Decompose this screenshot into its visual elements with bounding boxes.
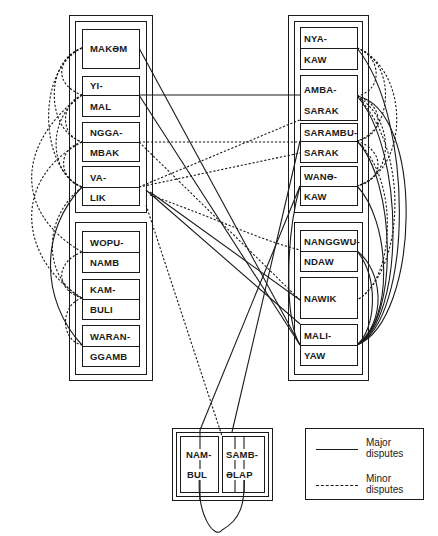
clan-nggambak[interactable]: NGGA- MBAK [82, 122, 140, 162]
clan-valik[interactable]: VA- LIK [82, 166, 140, 206]
clan-label: SARAK [304, 147, 339, 158]
clan-kambuli[interactable]: KAM- BULI [82, 279, 140, 320]
clan-label: NYA- [304, 33, 327, 44]
clan-label: KAW [304, 54, 327, 65]
clan-nawik[interactable]: NAWIK [300, 277, 358, 319]
clan-wanekaw[interactable]: WANƏ- KAW [300, 166, 358, 206]
clan-label: SAMB- [226, 449, 258, 460]
clan-nambul[interactable]: NAM- BUL [180, 436, 219, 493]
clan-label: KAW [304, 191, 327, 202]
legend-minor-line-swatch [316, 485, 358, 486]
clan-label: MALI- [304, 330, 331, 341]
dispute-diagram: MAKƏM YI- MAL NGGA- MBAK VA- LIK WOPU- N… [0, 0, 438, 536]
clan-label: AMBA- [304, 84, 337, 95]
clan-label: SARAMBU- [304, 127, 357, 138]
clan-label: MAL [90, 101, 111, 112]
clan-label: ƏLAP [226, 469, 253, 480]
clan-label: YI- [90, 80, 103, 91]
legend-major-line-swatch [316, 449, 358, 450]
clan-label: BUL [187, 469, 207, 480]
clan-makem[interactable]: MAKƏM [82, 29, 140, 69]
clan-label: NDAW [304, 256, 334, 267]
clan-label: SARAK [304, 105, 339, 116]
clan-nyakaw[interactable]: NYA- KAW [300, 27, 358, 70]
clan-label: WARAN- [90, 331, 130, 342]
clan-wopunamb[interactable]: WOPU- NAMB [82, 231, 140, 273]
clan-label: NAM- [186, 449, 212, 460]
clan-yimal[interactable]: YI- MAL [82, 76, 140, 117]
clan-label: NAWIK [304, 293, 337, 304]
clan-label: GGAMB [90, 351, 127, 362]
clan-label: NGGA- [90, 127, 123, 138]
legend-major-label: Major disputes [366, 437, 424, 459]
clan-label: WANƏ- [304, 171, 337, 182]
legend-minor-label: Minor disputes [366, 473, 424, 495]
clan-label: MAKƏM [90, 43, 127, 54]
clan-label: WOPU- [90, 237, 124, 248]
clan-label: VA- [90, 172, 106, 183]
clan-sarambusarak[interactable]: SARAMBU- SARAK [300, 123, 358, 163]
clan-label: YAW [304, 350, 325, 361]
clan-label: KAM- [90, 284, 116, 295]
clan-nanggwundaw[interactable]: NANGGWU- NDAW [300, 230, 358, 272]
clan-waranggamb[interactable]: WARAN- GGAMB [82, 325, 140, 367]
legend: Major disputes Minor disputes [305, 428, 424, 500]
clan-label: LIK [90, 192, 106, 203]
clan-label: NANGGWU- [304, 236, 360, 247]
clan-ambasarak[interactable]: AMBA- SARAK [300, 75, 358, 121]
clan-maliyaw[interactable]: MALI- YAW [300, 324, 358, 366]
clan-label: MBAK [90, 147, 119, 158]
clan-sambelap[interactable]: SAMB- ƏLAP [222, 436, 265, 493]
clan-label: BULI [90, 304, 113, 315]
clan-label: NAMB [90, 257, 119, 268]
